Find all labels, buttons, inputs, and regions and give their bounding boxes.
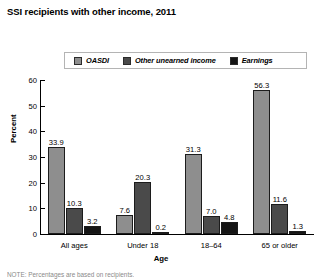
bar-value-label: 7.6	[119, 206, 130, 215]
bar[interactable]: 1.3	[289, 231, 306, 234]
y-axis-tick-label: 30	[29, 153, 37, 162]
y-axis-tick-label: 50	[29, 101, 37, 110]
bar-value-label: 10.3	[67, 199, 82, 208]
bar-value-label: 7.0	[206, 207, 217, 216]
bar-value-label: 0.2	[155, 223, 166, 232]
x-axis-category-label: 65 or older	[262, 241, 298, 250]
bar[interactable]: 10.3	[66, 208, 83, 234]
bar[interactable]: 7.6	[116, 215, 133, 235]
bar-value-label: 1.3	[292, 222, 303, 231]
bar[interactable]: 31.3	[185, 154, 202, 234]
legend-swatch-other-unearned-income	[123, 57, 131, 65]
y-axis-tick-mark	[41, 131, 45, 132]
y-axis-tick-label: 20	[29, 178, 37, 187]
y-axis-tick-label: 60	[29, 76, 37, 85]
bar-value-label: 20.3	[135, 173, 150, 182]
bar[interactable]: 11.6	[271, 204, 288, 234]
bar-value-label: 33.9	[49, 138, 64, 147]
bar[interactable]: 0.2	[152, 232, 169, 234]
bar-value-label: 31.3	[186, 145, 201, 154]
y-axis-tick-label: 40	[29, 127, 37, 136]
legend-swatch-earnings	[230, 57, 238, 65]
y-axis-title: Percent	[9, 114, 18, 143]
bar[interactable]: 3.2	[84, 226, 101, 234]
chart-figure: SSI recipients with other income, 2011 O…	[0, 0, 322, 279]
chart-footnote: NOTE: Percentages are based on recipient…	[7, 271, 134, 279]
x-axis-category-label: 18–64	[201, 241, 222, 250]
legend-entry-oasdi: OASDI	[74, 56, 109, 65]
bar-group: 56.311.61.3	[253, 80, 306, 234]
bar[interactable]: 56.3	[253, 90, 270, 235]
bar[interactable]: 7.0	[203, 216, 220, 234]
x-axis-line	[40, 234, 314, 235]
bar[interactable]: 4.8	[221, 222, 238, 234]
y-axis-tick-mark	[41, 208, 45, 209]
y-axis-tick-mark	[41, 183, 45, 184]
bar[interactable]: 20.3	[134, 182, 151, 234]
y-axis-tick-mark	[41, 106, 45, 107]
legend-label-other-unearned-income: Other unearned income	[135, 56, 216, 65]
x-axis-title: Age	[0, 254, 322, 263]
x-axis-category-label: All ages	[61, 241, 88, 250]
y-axis-tick-mark	[41, 234, 45, 235]
y-axis-tick-mark	[41, 80, 45, 81]
bar-value-label: 3.2	[87, 217, 98, 226]
legend-label-earnings: Earnings	[242, 56, 273, 65]
y-axis-tick-label: 10	[29, 204, 37, 213]
y-axis-tick-mark	[41, 157, 45, 158]
bar-value-label: 56.3	[254, 81, 269, 90]
bar-value-label: 4.8	[224, 213, 235, 222]
chart-legend: OASDI Other unearned income Earnings	[64, 52, 307, 69]
bar-value-label: 11.6	[273, 195, 287, 204]
legend-swatch-oasdi	[74, 57, 82, 65]
bar-group: 33.910.33.2	[48, 80, 101, 234]
plot-area: 0102030405060 33.910.33.27.620.30.231.37…	[40, 80, 314, 235]
bar[interactable]: 33.9	[48, 147, 65, 234]
y-axis-tick-label: 0	[33, 230, 37, 239]
legend-entry-other-unearned-income: Other unearned income	[123, 56, 216, 65]
x-axis-category-label: Under 18	[127, 241, 158, 250]
bar-group: 31.37.04.8	[185, 80, 238, 234]
chart-title: SSI recipients with other income, 2011	[7, 6, 176, 17]
legend-entry-earnings: Earnings	[230, 56, 273, 65]
legend-label-oasdi: OASDI	[86, 56, 109, 65]
bar-group: 7.620.30.2	[116, 80, 169, 234]
